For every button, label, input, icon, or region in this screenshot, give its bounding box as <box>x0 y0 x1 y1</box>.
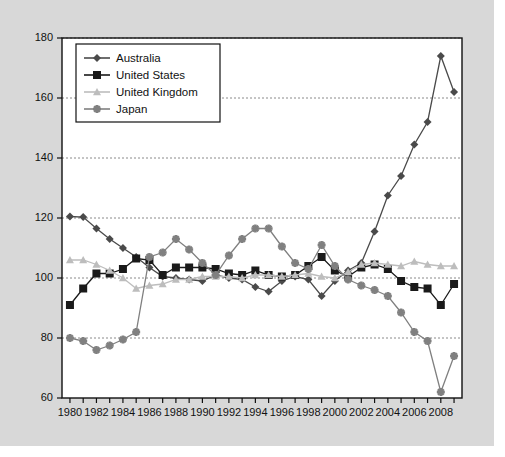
y-axis-tick-label: 160 <box>35 91 53 103</box>
data-point-marker <box>251 225 259 233</box>
x-axis-tick-label: 2000 <box>323 406 347 418</box>
data-point-marker <box>331 262 339 270</box>
data-point-marker <box>119 336 127 344</box>
data-point-marker <box>185 264 193 272</box>
data-point-marker <box>212 271 220 279</box>
x-axis-tick-label: 1998 <box>296 406 320 418</box>
data-point-marker <box>106 342 114 350</box>
data-point-marker <box>185 246 193 254</box>
data-point-marker <box>437 388 445 396</box>
x-axis-tick-label: 2008 <box>429 406 453 418</box>
data-point-marker <box>93 105 101 113</box>
x-axis-tick-label: 1986 <box>137 406 161 418</box>
data-point-marker <box>424 337 432 345</box>
data-point-marker <box>397 309 405 317</box>
line-chart: 6080100120140160180198019821984198619881… <box>0 0 494 446</box>
data-point-marker <box>159 249 167 257</box>
data-point-marker <box>291 259 299 267</box>
legend-label: United States <box>116 69 185 81</box>
x-axis-tick-label: 1982 <box>84 406 108 418</box>
x-axis-tick-label: 2004 <box>376 406 400 418</box>
data-point-marker <box>450 280 458 288</box>
data-point-marker <box>132 328 140 336</box>
y-axis-tick-label: 140 <box>35 151 53 163</box>
data-point-marker <box>344 276 352 284</box>
data-point-marker <box>79 337 87 345</box>
x-axis-tick-label: 1992 <box>217 406 241 418</box>
data-point-marker <box>278 243 286 251</box>
legend-label: Australia <box>116 52 161 64</box>
data-point-marker <box>198 259 206 267</box>
x-axis-tick-label: 1984 <box>111 406 135 418</box>
data-point-marker <box>92 270 100 278</box>
data-point-marker <box>410 283 418 291</box>
legend-label: United Kingdom <box>116 86 198 98</box>
data-point-marker <box>159 271 167 279</box>
data-point-marker <box>119 265 127 273</box>
x-axis-tick-label: 1996 <box>270 406 294 418</box>
data-point-marker <box>79 285 87 293</box>
data-point-marker <box>238 235 246 243</box>
x-axis-tick-label: 2006 <box>402 406 426 418</box>
legend-label: Japan <box>116 103 147 115</box>
data-point-marker <box>172 264 180 272</box>
x-axis-tick-label: 1994 <box>243 406 267 418</box>
x-axis-tick-label: 1980 <box>58 406 82 418</box>
x-axis-tick-label: 1988 <box>164 406 188 418</box>
data-point-marker <box>450 352 458 360</box>
data-point-marker <box>424 285 432 293</box>
x-axis-tick-label: 1990 <box>190 406 214 418</box>
data-point-marker <box>265 225 273 233</box>
data-point-marker <box>66 301 74 309</box>
data-point-marker <box>92 346 100 354</box>
data-point-marker <box>437 301 445 309</box>
data-point-marker <box>357 282 365 290</box>
data-point-marker <box>145 253 153 261</box>
y-axis-tick-label: 120 <box>35 211 53 223</box>
y-axis-tick-label: 180 <box>35 31 53 43</box>
data-point-marker <box>132 255 140 263</box>
x-axis-tick-label: 2002 <box>349 406 373 418</box>
data-point-marker <box>225 252 233 260</box>
y-axis-tick-label: 60 <box>41 391 53 403</box>
data-point-marker <box>397 277 405 285</box>
data-point-marker <box>384 292 392 300</box>
data-point-marker <box>66 334 74 342</box>
data-point-marker <box>371 286 379 294</box>
data-point-marker <box>93 71 101 79</box>
data-point-marker <box>318 253 326 261</box>
data-point-marker <box>172 235 180 243</box>
data-point-marker <box>304 265 312 273</box>
data-point-marker <box>410 328 418 336</box>
data-point-marker <box>318 241 326 249</box>
y-axis-tick-label: 80 <box>41 331 53 343</box>
y-axis-tick-label: 100 <box>35 271 53 283</box>
figure-background: 6080100120140160180198019821984198619881… <box>0 0 494 446</box>
